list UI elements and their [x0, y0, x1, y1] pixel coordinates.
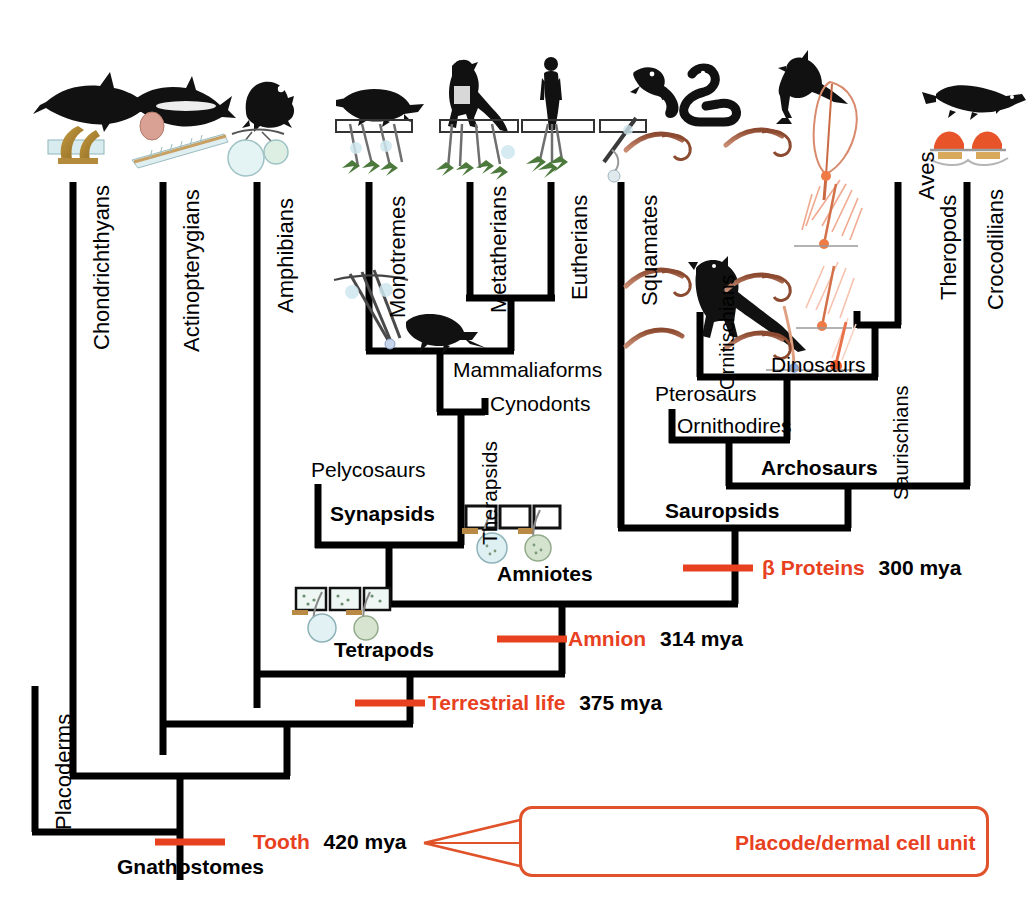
tip-label-theropods: Theropods — [936, 195, 962, 300]
clade-label-archosaurs: Archosaurs — [761, 456, 878, 480]
clade-label-mammaliaforms: Mammaliaforms — [453, 358, 602, 382]
tip-label-monotremes: Monotremes — [385, 196, 411, 318]
eutherian-hair-diagram — [522, 120, 594, 178]
annotation-tooth-event: Tooth — [253, 830, 310, 853]
clade-label-gnathostomes: Gnathostomes — [117, 855, 264, 879]
crocodile-silhouette — [922, 85, 1026, 120]
tip-label-aves: Aves — [914, 151, 940, 200]
tetrapod-placode-diagram — [292, 588, 390, 642]
downy-feather — [794, 180, 862, 249]
shark-denticle-diagram — [48, 126, 104, 164]
placode-callout-label: Placode/dermal cell unit — [735, 831, 975, 855]
downy-feather-2 — [796, 262, 854, 331]
clade-label-sauropsids: Sauropsids — [665, 499, 779, 523]
amniote-placode-diagram — [462, 506, 560, 563]
tip-label-placoderms: Placoderms — [51, 714, 77, 830]
figure-canvas: Chondrichthyans Actinopterygians Amphibi… — [0, 0, 1035, 915]
clade-label-cynodonts: Cynodonts — [490, 392, 590, 416]
clade-label-therapsids: Therapsids — [478, 441, 502, 545]
annotation-amnion-event: Amnion — [568, 627, 646, 650]
kangaroo-silhouette — [448, 60, 508, 132]
annotation-amnion-age: 314 mya — [660, 627, 743, 650]
annotation-tooth: Tooth 420 mya — [253, 830, 407, 854]
tip-label-chondrichthyans: Chondrichthyans — [89, 185, 115, 350]
clade-label-ornithodires: Ornithodires — [677, 414, 791, 438]
clade-label-dinosaurs: Dinosaurs — [771, 353, 866, 377]
lizard-silhouette — [630, 67, 679, 118]
annotation-terrestrial-life: Terrestrial life 375 mya — [428, 691, 662, 715]
annotation-beta-proteins-event: β Proteins — [762, 556, 865, 579]
phylogenetic-tree-graphic — [0, 0, 1035, 915]
frog-silhouette — [242, 82, 294, 132]
tip-label-ornitischians: Ornitischians — [716, 274, 739, 390]
annotation-terrestrial-life-age: 375 mya — [579, 691, 662, 714]
annotation-beta-proteins: β Proteins 300 mya — [762, 556, 961, 580]
platypus-silhouette — [336, 89, 424, 127]
clade-label-pterosaurs: Pterosaurs — [655, 382, 757, 406]
crocodilian-scute-diagram — [928, 131, 1008, 165]
annotation-terrestrial-life-event: Terrestrial life — [428, 691, 565, 714]
annotation-beta-proteins-age: 300 mya — [879, 556, 962, 579]
clade-label-synapsids: Synapsids — [330, 502, 435, 526]
clade-label-tetrapods: Tetrapods — [334, 638, 434, 662]
tip-label-eutherians: Eutherians — [567, 195, 593, 300]
annotation-tooth-age: 420 mya — [324, 830, 407, 853]
tip-label-saurischians: Saurischians — [890, 385, 913, 500]
tip-label-squamates: Squamates — [637, 195, 663, 306]
sensory-bristle-diagram — [600, 118, 646, 182]
placode-callout-box: Placode/dermal cell unit — [519, 806, 989, 877]
callout-leader-lines — [424, 820, 520, 866]
annotation-amnion: Amnion 314 mya — [568, 627, 743, 651]
tip-label-actinopterygians: Actinopterygians — [179, 189, 205, 352]
tip-label-amphibians: Amphibians — [273, 198, 299, 313]
bird-silhouette — [776, 50, 848, 124]
tip-label-crocodilians: Crocodilians — [983, 189, 1009, 310]
amphibian-gland-diagram — [228, 130, 288, 177]
clade-label-amniotes: Amniotes — [497, 562, 593, 586]
snake-silhouette — [684, 68, 737, 122]
tip-label-metatherians: Metatherians — [486, 186, 512, 313]
clade-label-pelycosaurs: Pelycosaurs — [311, 458, 425, 482]
monotreme-hair-diagram — [336, 120, 412, 176]
